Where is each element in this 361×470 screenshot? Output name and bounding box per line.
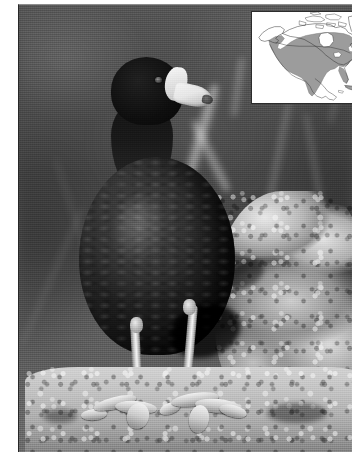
- north-america-map: [252, 12, 352, 103]
- body-highlight: [115, 199, 167, 265]
- rock-shadow: [267, 403, 327, 423]
- rock-shadow: [43, 409, 77, 423]
- leg-joint-right: [183, 299, 196, 315]
- range-map-inset: North America range map breeding and yea…: [251, 11, 352, 104]
- leg-joint-left: [130, 317, 143, 333]
- photograph-plate: North America range map breeding and yea…: [18, 4, 352, 452]
- eye-icon: [155, 77, 162, 83]
- figure-page: North America range map breeding and yea…: [0, 0, 361, 470]
